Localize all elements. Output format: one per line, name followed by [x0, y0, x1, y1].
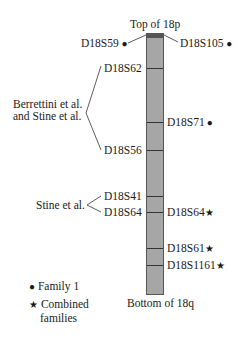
- study-label-line2: and Stine et al.: [13, 110, 82, 122]
- marker-d18s56: D18S56: [104, 144, 142, 156]
- legend-label: Combined: [41, 298, 89, 310]
- tick-d18s64: [147, 212, 163, 213]
- marker-d18s61: D18S61★: [167, 242, 214, 255]
- marker-name: D18S71: [167, 116, 205, 128]
- dot-icon: ●: [207, 117, 213, 128]
- marker-name: D18S64: [167, 206, 205, 218]
- marker-d18s41: D18S41: [104, 190, 142, 202]
- marker-name: D18S61: [167, 242, 205, 254]
- dot-icon: ●: [29, 281, 35, 292]
- marker-d18s105: D18S105 ●: [180, 37, 232, 50]
- study-label-line1: Berrettini et al.: [13, 98, 82, 110]
- dot-icon: ●: [122, 38, 128, 49]
- marker-d18s64-right: D18S64★: [167, 206, 214, 219]
- marker-name: D18S59: [81, 37, 119, 49]
- study-berrettini-stine: Berrettini et al. and Stine et al.: [13, 98, 82, 122]
- tick-d18s1161: [147, 265, 163, 266]
- tick-d18s41: [147, 196, 163, 197]
- star-icon: ★: [216, 260, 225, 271]
- tick-d18s62: [147, 68, 163, 69]
- bottom-of-18q-label: Bottom of 18q: [127, 297, 194, 309]
- marker-d18s1161: D18S1161★: [167, 259, 225, 272]
- study-stine: Stine et al.: [36, 199, 85, 211]
- marker-name: D18S1161: [167, 259, 216, 271]
- legend-label: Family 1: [38, 280, 79, 292]
- marker-d18s64-left: D18S64: [104, 206, 142, 218]
- legend-family-1: ● Family 1: [29, 280, 79, 293]
- legend-combined-families: ★ Combined: [29, 298, 89, 311]
- chromosome-18-bar: [146, 33, 164, 295]
- dot-icon: ●: [226, 38, 232, 49]
- legend-combined-families-line2: families: [40, 312, 77, 324]
- bar-top-cap: [147, 34, 163, 38]
- marker-d18s71: D18S71●: [167, 116, 213, 129]
- tick-d18s61: [147, 248, 163, 249]
- tick-d18s56: [147, 150, 163, 151]
- top-of-18p-label: Top of 18p: [130, 18, 180, 30]
- star-icon: ★: [29, 299, 38, 310]
- marker-name: D18S105: [180, 37, 223, 49]
- tick-d18s71: [147, 122, 163, 123]
- marker-d18s62: D18S62: [104, 62, 142, 74]
- star-icon: ★: [205, 243, 214, 254]
- star-icon: ★: [205, 207, 214, 218]
- marker-d18s59: D18S59 ●: [81, 37, 128, 50]
